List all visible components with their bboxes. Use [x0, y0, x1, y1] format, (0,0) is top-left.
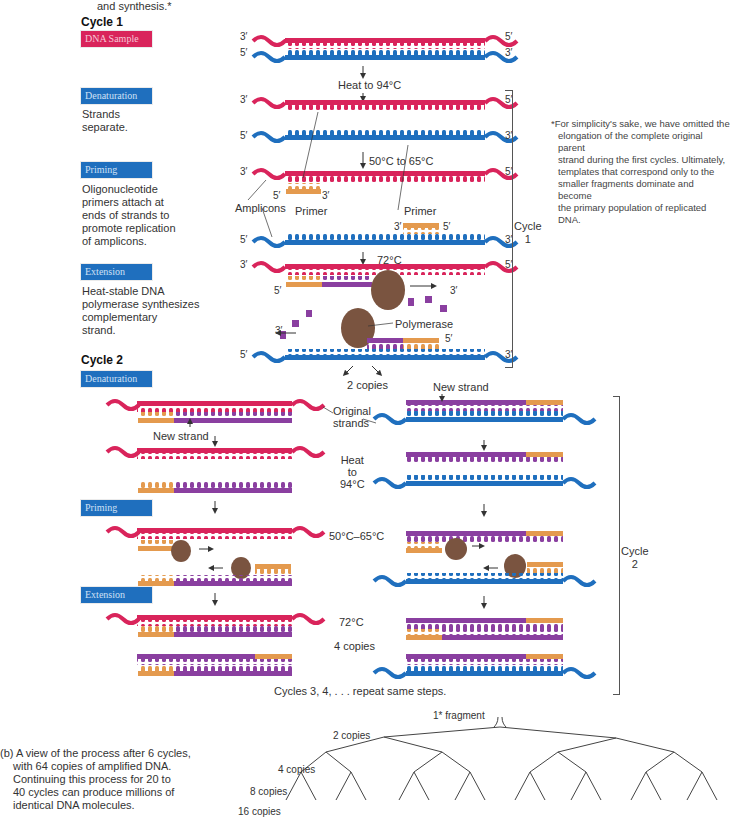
polymerase-icon [171, 540, 191, 562]
polymerase-label: Polymerase [395, 318, 453, 330]
label-5prime: 5′ [505, 31, 512, 42]
polymerase-icon [371, 270, 405, 310]
label-5prime: 5′ [240, 349, 247, 360]
tree-label-8: 8 copies [250, 786, 287, 797]
anneal-label: 50°C to 65°C [369, 155, 433, 167]
tree-label-2: 2 copies [333, 730, 370, 741]
label-5prime: 5′ [273, 190, 280, 201]
cycle2-copies-label: 4 copies [334, 640, 375, 652]
new-strand-label: New strand [153, 430, 209, 442]
cycle1-bracket [505, 90, 513, 368]
footnote: *For simplicity's sake, we have omitted … [551, 118, 730, 226]
amplicons-label: Amplicons [235, 202, 286, 214]
separated-bottom-strand [253, 129, 517, 141]
tree-label-4: 4 copies [278, 764, 315, 775]
cycle2-left-heat [107, 448, 324, 493]
primer-label: Primer [404, 205, 436, 217]
panel-b-caption: (b) A view of the process after 6 cycles… [0, 747, 191, 812]
original-strands-label: Original strands [333, 405, 371, 429]
label-3prime: 3′ [240, 94, 247, 105]
label-3prime: 3′ [450, 285, 457, 296]
cycle2-right-priming [374, 531, 595, 585]
cycle2-right-heat [374, 452, 595, 487]
dna-sample-double-strand [253, 37, 517, 61]
cycle2-extend-label: 72°C [339, 616, 364, 628]
label-3prime: 3′ [275, 325, 282, 336]
label-5prime: 5′ [240, 130, 247, 141]
cycle2-bracket-label: Cycle 2 [621, 545, 649, 571]
heat-label: Heat to 94°C [338, 79, 401, 91]
label-5prime: 5′ [240, 47, 247, 58]
cycle2-heat-label: Heat to 94°C [340, 454, 365, 490]
cycle1-bracket-label: Cycle 1 [514, 220, 542, 246]
label-5prime: 5′ [443, 221, 450, 232]
label-3prime: 3′ [505, 47, 512, 58]
label-3prime: 3′ [240, 166, 247, 177]
cycle2-bracket [613, 396, 620, 695]
label-3prime: 3′ [240, 259, 247, 270]
label-3prime: 3′ [322, 190, 329, 201]
tree-label-1: 1* fragment [433, 710, 485, 721]
cycle2-left-denaturation [107, 401, 324, 423]
extension-bottom-strand [253, 338, 517, 361]
separated-top-strand [253, 99, 517, 111]
extend-label: 72°C [377, 254, 402, 266]
polymerase-icon [445, 538, 467, 560]
label-3prime: 3′ [240, 31, 247, 42]
repeat-label: Cycles 3, 4, . . . repeat same steps. [274, 685, 446, 697]
label-5prime: 5′ [240, 234, 247, 245]
primer-label: Primer [295, 205, 327, 217]
tree-label-16: 16 copies [238, 806, 281, 817]
cycle2-right-extension [374, 618, 595, 677]
priming-bottom-strand [253, 223, 517, 246]
cycle2-left-extension [107, 615, 324, 676]
priming-top-strand [253, 170, 517, 194]
copies-label: 2 copies [347, 379, 388, 391]
cycle2-anneal-label: 50°C–65°C [329, 530, 384, 542]
label-5prime: 5′ [274, 285, 281, 296]
label-3prime: 3′ [394, 221, 401, 232]
cycle2-left-priming [107, 528, 324, 586]
new-strand-label: New strand [433, 381, 489, 393]
cycle2-right-denaturation [374, 400, 595, 423]
label-5prime: 5′ [445, 333, 452, 344]
